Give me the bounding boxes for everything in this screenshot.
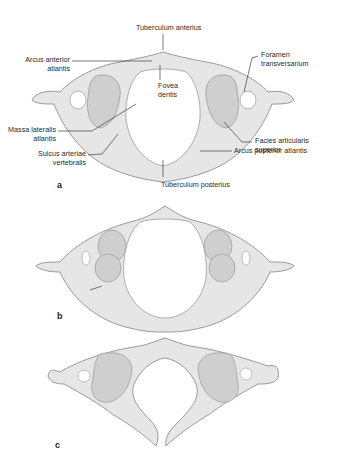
- panel-letter-a: a: [57, 180, 62, 190]
- panel-letter-c: c: [55, 440, 60, 450]
- panel-c-illustration: [48, 338, 279, 446]
- label-massa-lateralis: Massa lateralis atlantis: [0, 126, 56, 143]
- label-massa-line2: atlantis: [0, 135, 56, 144]
- label-sulcus-arteriae: Sulcus arteriae vertebralis: [20, 150, 86, 167]
- label-arcus-posterior: Arcus posterior atlantis: [234, 147, 307, 156]
- panel-letter-b: b: [57, 311, 63, 321]
- atlas-vertebra-figure: Tuberculum anterius Arcus anterior atlan…: [0, 0, 342, 464]
- label-fovea-line2: dentis: [158, 91, 178, 100]
- label-arcus-anterior-line2: atlantis: [10, 65, 70, 74]
- label-sulcus-line2: vertebralis: [20, 159, 86, 168]
- label-tuberculum-anterius: Tuberculum anterius: [136, 24, 201, 33]
- label-fovea-dentis: Fovea dentis: [158, 82, 178, 99]
- label-arcus-anterior: Arcus anterior atlantis: [10, 56, 70, 73]
- label-tuberculum-posterius: Tuberculum posterius: [161, 181, 230, 190]
- label-foramen-transversarium: Foramen transversarium: [261, 51, 309, 68]
- label-foramen-line2: transversarium: [261, 60, 309, 69]
- panel-b-illustration: [36, 206, 294, 332]
